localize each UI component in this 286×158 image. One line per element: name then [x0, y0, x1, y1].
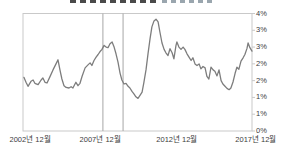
x-axis-tick-label: 2017년 12월: [235, 135, 276, 145]
y-axis-tick-label: 1%: [256, 110, 284, 118]
x-axis-tick-label: 2012년 12월: [156, 135, 197, 145]
x-axis-tick-label: 2002년 12월: [10, 135, 51, 145]
y-axis-tick-label: 3%: [256, 26, 284, 34]
y-axis-tick-label: 2%: [256, 60, 284, 68]
x-axis-tick-label: 2007년 12월: [80, 135, 121, 145]
y-axis-tick-label: 2%: [256, 77, 284, 85]
y-axis-tick-label: 0%: [256, 127, 284, 135]
y-axis-tick-label: 1%: [256, 93, 284, 101]
y-axis-tick-label: 3%: [256, 43, 284, 51]
chart-container: 4%3%3%2%2%1%1%0% 2002년 12월2007년 12월2012년…: [0, 0, 286, 158]
rate-line: [24, 19, 252, 98]
y-axis-tick-label: 4%: [256, 10, 284, 18]
